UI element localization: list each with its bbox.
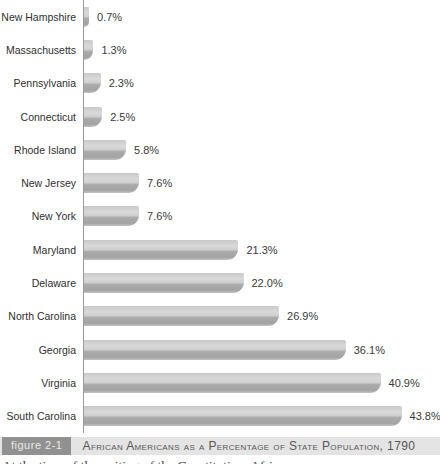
bar-row: New Hampshire0.7% — [0, 0, 440, 33]
value-label: 40.9% — [389, 377, 420, 389]
category-label: Delaware — [0, 277, 83, 289]
bar-row: South Carolina43.8% — [0, 400, 440, 433]
category-label: Massachusetts — [0, 44, 83, 56]
bar-track: 36.1% — [84, 333, 440, 366]
bar — [84, 206, 139, 226]
value-label: 1.3% — [101, 44, 126, 56]
bar — [84, 107, 102, 127]
category-label: North Carolina — [0, 310, 83, 322]
category-label: New Jersey — [0, 177, 83, 189]
category-label: Virginia — [0, 377, 83, 389]
category-label: Maryland — [0, 244, 83, 256]
bar-row: Pennsylvania2.3% — [0, 67, 440, 100]
bar-row: New York7.6% — [0, 200, 440, 233]
category-label: New York — [0, 210, 83, 222]
bar-row: Maryland21.3% — [0, 233, 440, 266]
category-label: New Hampshire — [0, 11, 83, 23]
bar — [84, 40, 93, 60]
value-label: 0.7% — [97, 11, 122, 23]
bar-row: Delaware22.0% — [0, 266, 440, 299]
bar — [84, 73, 101, 93]
bar — [84, 140, 126, 160]
value-label: 21.3% — [246, 244, 277, 256]
figure-page: New Hampshire0.7%Massachusetts1.3%Pennsy… — [0, 0, 440, 464]
figure-caption-bar: figure 2-1 African Americans as a Percen… — [0, 437, 440, 455]
value-label: 43.8% — [410, 410, 440, 422]
body-text-clipped: At the time of the writing of the Consti… — [0, 458, 440, 464]
value-label: 7.6% — [147, 177, 172, 189]
bar-row: Rhode Island5.8% — [0, 133, 440, 166]
value-label: 2.3% — [109, 77, 134, 89]
bar — [84, 340, 346, 360]
figure-caption-text: African Americans as a Percentage of Sta… — [71, 437, 415, 455]
category-label: Georgia — [0, 344, 83, 356]
bar-track: 40.9% — [84, 366, 440, 399]
bar-rows-container: New Hampshire0.7%Massachusetts1.3%Pennsy… — [0, 0, 440, 433]
bar-track: 26.9% — [84, 300, 440, 333]
category-label: Connecticut — [0, 111, 83, 123]
figure-number-badge: figure 2-1 — [2, 437, 71, 455]
bar — [84, 406, 402, 426]
bar-row: Massachusetts1.3% — [0, 33, 440, 66]
bar-track: 5.8% — [84, 133, 440, 166]
bar-track: 43.8% — [84, 400, 440, 433]
value-label: 22.0% — [252, 277, 283, 289]
bar — [84, 273, 244, 293]
bar-track: 7.6% — [84, 200, 440, 233]
bar-chart: New Hampshire0.7%Massachusetts1.3%Pennsy… — [0, 0, 440, 433]
bar-track: 21.3% — [84, 233, 440, 266]
bar-track: 22.0% — [84, 266, 440, 299]
category-label: South Carolina — [0, 410, 83, 422]
category-label: Rhode Island — [0, 144, 83, 156]
value-label: 7.6% — [147, 210, 172, 222]
bar-row: Virginia40.9% — [0, 366, 440, 399]
value-label: 36.1% — [354, 344, 385, 356]
bar — [84, 306, 279, 326]
bar-track: 2.3% — [84, 67, 440, 100]
bar-row: Connecticut2.5% — [0, 100, 440, 133]
value-label: 5.8% — [134, 144, 159, 156]
bar-row: North Carolina26.9% — [0, 300, 440, 333]
bar-track: 2.5% — [84, 100, 440, 133]
value-label: 2.5% — [110, 111, 135, 123]
bar — [84, 240, 238, 260]
bar-track: 0.7% — [84, 0, 440, 33]
category-label: Pennsylvania — [0, 77, 83, 89]
bar-row: Georgia36.1% — [0, 333, 440, 366]
bar-track: 1.3% — [84, 33, 440, 66]
bar — [84, 173, 139, 193]
bar — [84, 373, 381, 393]
bar — [84, 7, 89, 27]
bar-track: 7.6% — [84, 166, 440, 199]
value-label: 26.9% — [287, 310, 318, 322]
bar-row: New Jersey7.6% — [0, 166, 440, 199]
